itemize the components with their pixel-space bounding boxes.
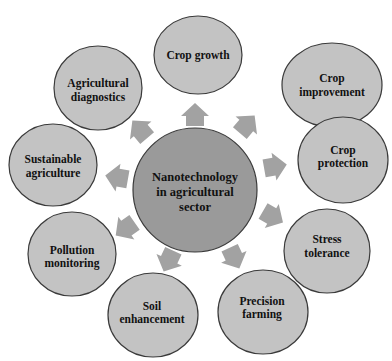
node-crop-improvement: Crop improvement xyxy=(282,43,382,127)
center-node: Nanotechnology in agricultural sector xyxy=(133,128,257,252)
node-sustainable-agriculture: Sustainable agriculture xyxy=(9,124,97,206)
arrow-icon-crop-protection xyxy=(262,151,290,183)
node-agricultural-diagnostics: Agricultural diagnostics xyxy=(54,46,142,130)
node-label-line2: protection xyxy=(318,157,369,170)
node-label-line1: Sustainable xyxy=(25,153,82,165)
node-label-line1: Crop xyxy=(330,144,355,157)
node-precision-farming: Precision farming xyxy=(218,270,308,354)
node-crop-protection: Crop protection xyxy=(298,117,388,203)
node-label-line2: agriculture xyxy=(26,167,81,180)
arrow-icon-stress-tolerance xyxy=(256,199,290,235)
center-label-line2: in agricultural xyxy=(156,185,234,199)
node-label-line1: Crop xyxy=(319,72,344,85)
node-stress-tolerance: Stress tolerance xyxy=(284,209,370,293)
arrow-icon-crop-growth xyxy=(181,103,209,126)
node-label-line2: diagnostics xyxy=(71,91,126,104)
node-label-line1: Precision xyxy=(239,295,285,307)
node-label-line1: Soil xyxy=(143,300,162,312)
arrow-icon-crop-improvement xyxy=(229,107,265,143)
nanotech-agriculture-diagram: Nanotechnology in agricultural sector Cr… xyxy=(0,0,392,361)
node-label-line2: enhancement xyxy=(119,313,184,325)
center-label-line3: sector xyxy=(179,200,211,214)
node-label: Crop growth xyxy=(166,49,230,62)
node-label-line2: monitoring xyxy=(45,257,100,270)
node-label-line2: improvement xyxy=(299,86,365,99)
node-pollution-monitoring: Pollution monitoring xyxy=(28,212,116,296)
arrow-icon-sustainable-agriculture xyxy=(103,162,131,194)
node-label-line1: Stress xyxy=(312,233,342,245)
center-label-line1: Nanotechnology xyxy=(152,170,239,184)
node-soil-enhancement: Soil enhancement xyxy=(108,273,198,357)
node-label-line2: tolerance xyxy=(304,247,349,259)
node-label-line2: farming xyxy=(242,308,282,321)
node-crop-growth: Crop growth xyxy=(154,16,242,94)
arrow-icon-precision-farming xyxy=(217,242,252,275)
node-label-line1: Agricultural xyxy=(67,77,128,90)
node-label-line1: Pollution xyxy=(50,244,95,256)
